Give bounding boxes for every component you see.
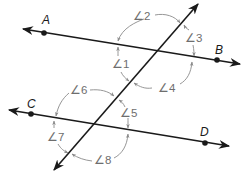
point-b-label: B: [215, 43, 223, 57]
angle-4-arc-right: [180, 62, 192, 84]
point-d-label: D: [200, 125, 209, 139]
angle-7-arc-down: [58, 144, 68, 153]
angle-4-label: ∠4: [158, 82, 176, 94]
point-b-dot: [214, 57, 220, 63]
angle-8-arc-left: [72, 154, 92, 161]
line-ab: [23, 29, 240, 64]
angle-3-label: ∠3: [185, 32, 202, 44]
angle-1-arc-down: [121, 72, 129, 81]
angle-6-arc-right: [90, 90, 114, 96]
point-a-label: A: [41, 13, 50, 27]
angle-6-arc-left: [56, 93, 69, 116]
angle-8-arc-right: [114, 134, 128, 158]
angle-5-label: ∠5: [120, 107, 137, 119]
angle-6-label: ∠6: [70, 84, 87, 96]
point-a-dot: [41, 30, 47, 36]
line-cd: [9, 110, 229, 146]
angle-2-arc: [118, 19, 144, 41]
point-d-dot: [202, 140, 208, 146]
angle-4-arc-left: [134, 83, 152, 88]
angle-5-arc-up: [119, 100, 125, 107]
angle-3-arc-lower: [193, 45, 194, 56]
angle-2-arc-right: [155, 14, 180, 23]
point-c-label: C: [27, 97, 36, 111]
angle-1-label: ∠1: [112, 58, 129, 70]
angle-3-arc: [184, 25, 189, 30]
angle-7-label: ∠7: [47, 131, 64, 143]
point-c-dot: [28, 111, 34, 117]
parallel-lines-transversal-diagram: A B C D ∠2 ∠3 ∠1 ∠4 ∠6 ∠5 ∠7 ∠8: [0, 0, 242, 180]
angle-8-label: ∠8: [94, 154, 111, 166]
angle-2-label: ∠2: [133, 10, 150, 22]
